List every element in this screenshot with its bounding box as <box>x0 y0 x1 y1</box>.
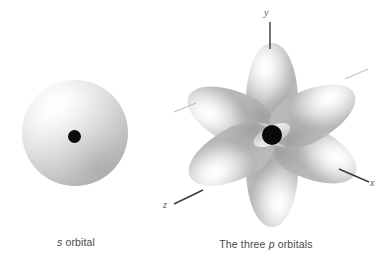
x-axis-label: x <box>370 177 374 188</box>
p-orbitals-nucleus-dot <box>262 125 282 145</box>
p-orbitals-caption: The three p orbitals <box>186 238 346 250</box>
p-orbitals-illustration <box>172 22 372 222</box>
s-orbital-nucleus-dot <box>68 130 81 143</box>
s-orbital-caption-text: orbital <box>62 236 95 248</box>
s-orbital-caption: s orbital <box>0 236 152 248</box>
z-axis-label: z <box>163 199 167 210</box>
s-orbital-illustration <box>22 80 128 186</box>
orbital-diagram-figure: s orbital <box>0 0 388 262</box>
p-orbitals-caption-lead: The three <box>219 238 268 250</box>
p-orbitals-caption-text: orbitals <box>275 238 313 250</box>
y-axis-label: y <box>264 7 268 18</box>
